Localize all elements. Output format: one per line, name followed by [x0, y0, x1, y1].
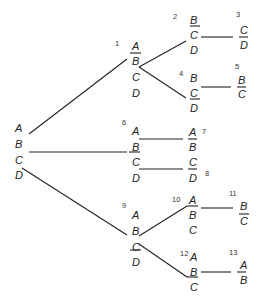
node-item: A: [190, 252, 197, 263]
node-item: B: [132, 142, 139, 153]
tree-diagram: A B C D 1 A B C D 2 B C D 3 C D 4 B C D …: [0, 0, 261, 308]
edge-9-10: [139, 206, 187, 236]
node-item: A: [132, 126, 139, 137]
node-item: C: [238, 89, 246, 100]
node-number: 12: [180, 250, 188, 258]
node-item: C: [190, 282, 198, 293]
edge-1-2: [139, 41, 186, 67]
node-number: 2: [173, 13, 177, 21]
edge-root-1: [29, 59, 127, 134]
node-number: 11: [229, 190, 237, 198]
node-item: A: [132, 41, 139, 52]
node-number: 6: [122, 119, 126, 127]
node-number: 1: [115, 40, 119, 48]
node-item: C: [240, 25, 248, 36]
node-item: C: [132, 242, 140, 253]
node-item: D: [15, 170, 23, 181]
node-item: C: [132, 157, 140, 168]
node-item: A: [189, 195, 196, 206]
node-item: C: [189, 225, 197, 236]
tree-edges: [0, 0, 261, 308]
node-item: B: [132, 56, 139, 67]
node-item: B: [240, 275, 247, 286]
node-item: A: [132, 210, 139, 221]
node-item: B: [190, 73, 197, 84]
node-item: A: [189, 127, 196, 138]
node-number: 4: [179, 70, 183, 78]
node-number: 5: [235, 63, 239, 71]
node-number: 3: [236, 11, 240, 19]
node-number: 13: [229, 249, 237, 257]
node-item: C: [132, 72, 140, 83]
node-item: D: [189, 173, 197, 184]
node-item: C: [240, 216, 248, 227]
edge-root-9: [22, 168, 127, 235]
node-item: B: [190, 15, 197, 26]
node-number: 7: [202, 128, 206, 136]
node-item: C: [15, 155, 23, 166]
node-item: B: [189, 210, 196, 221]
node-item: B: [15, 139, 22, 150]
node-item: C: [189, 157, 197, 168]
node-item: D: [190, 45, 198, 56]
node-item: D: [190, 103, 198, 114]
node-number: 9: [122, 202, 126, 210]
node-item: D: [132, 257, 140, 268]
node-item: B: [240, 201, 247, 212]
node-item: C: [190, 88, 198, 99]
node-number: 8: [205, 170, 209, 178]
node-item: C: [190, 30, 198, 41]
node-item: A: [240, 260, 247, 271]
node-item: B: [189, 142, 196, 153]
node-number: 10: [172, 196, 180, 204]
node-item: A: [15, 123, 22, 134]
node-item: B: [238, 75, 245, 86]
node-item: D: [132, 173, 140, 184]
node-item: D: [240, 40, 248, 51]
node-item: B: [132, 226, 139, 237]
node-item: B: [190, 267, 197, 278]
node-item: D: [132, 88, 140, 99]
